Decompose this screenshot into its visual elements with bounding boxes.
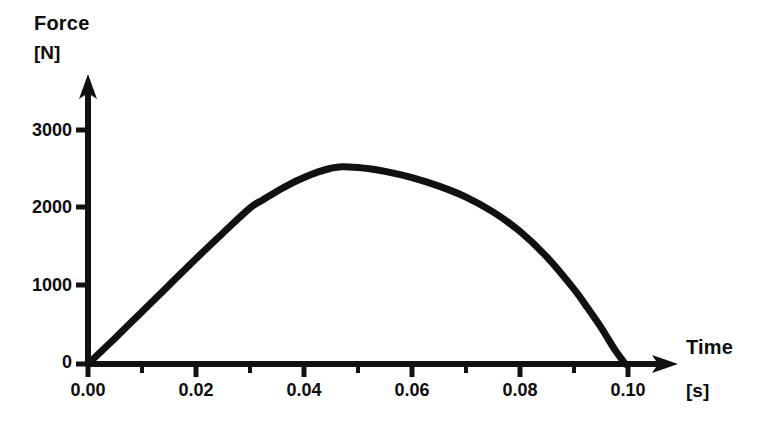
chart-canvas — [0, 0, 772, 424]
force-time-chart: Force [N] Time [s] 3000 2000 1000 0 0.00… — [0, 0, 772, 424]
force-curve-line — [88, 167, 625, 364]
